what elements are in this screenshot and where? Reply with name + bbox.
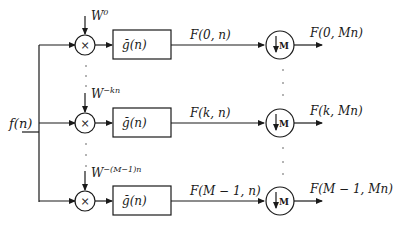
multiply-icon: × xyxy=(80,39,89,52)
branch-0-modulator-label: W0 xyxy=(91,8,108,23)
branch-0-downsample-factor: M xyxy=(279,41,289,51)
branch-k-output-label: F(k, Mn) xyxy=(309,104,363,118)
branch-0-filter-output-label: F(0, n) xyxy=(189,28,231,42)
branch-m1-output-label: F(M − 1, Mn) xyxy=(309,182,393,196)
branch-k-filter-output-label: F(k, n) xyxy=(189,106,231,120)
branch-k-downsample-factor: M xyxy=(279,119,289,129)
branch-m-minus-1: W−(M−1)n × ğ(n) F(M − 1, n) M F(M − 1, M… xyxy=(39,165,393,215)
branch-0-output-label: F(0, Mn) xyxy=(309,26,363,40)
branch-m1-filter-label: ğ(n) xyxy=(122,194,147,208)
filter-bank-diagram: f(n) W0 × ğ(n) F(0, n) M F(0, Mn) W−kn ×… xyxy=(0,0,401,227)
branch-0: W0 × ğ(n) F(0, n) M F(0, Mn) xyxy=(39,8,363,59)
branch-k-modulator-label: W−kn xyxy=(91,86,120,101)
input-label: f(n) xyxy=(8,116,32,131)
branch-m1-modulator-label: W−(M−1)n xyxy=(91,165,141,180)
multiply-icon: × xyxy=(80,195,89,208)
branch-m1-downsample-factor: M xyxy=(279,197,289,207)
branch-m1-filter-output-label: F(M − 1, n) xyxy=(189,184,261,198)
branch-k: W−kn × ğ(n) F(k, n) M F(k, Mn) xyxy=(39,86,363,137)
branch-0-filter-label: ğ(n) xyxy=(122,38,147,52)
multiply-icon: × xyxy=(80,117,89,130)
branch-k-filter-label: ğ(n) xyxy=(122,116,147,130)
